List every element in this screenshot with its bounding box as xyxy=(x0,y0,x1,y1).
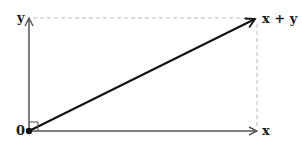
sum-label: x + y xyxy=(262,11,298,26)
sum-vector-arrow xyxy=(29,19,255,131)
origin-label: 0 xyxy=(16,123,25,138)
origin-point xyxy=(26,128,32,134)
vector-diagram: y 0 x + y x xyxy=(0,0,302,144)
y-label: y xyxy=(16,10,25,25)
x-label: x xyxy=(262,123,270,138)
